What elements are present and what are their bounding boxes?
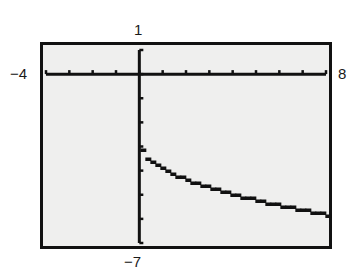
- curve-pixel: [170, 173, 176, 177]
- curve-pixel: [195, 182, 201, 186]
- curve-pixel: [275, 203, 281, 207]
- curve-pixel: [160, 167, 166, 171]
- curve-pixel: [260, 200, 266, 204]
- curve-pixel: [225, 191, 231, 195]
- curve-pixel: [185, 179, 191, 183]
- plot-area: [0, 0, 352, 278]
- curve-pixel: [235, 194, 241, 198]
- curve-pixel: [290, 206, 296, 210]
- curve-pixel: [155, 164, 161, 168]
- curve-pixel: [325, 215, 331, 219]
- curve-pixel: [145, 158, 151, 162]
- curve-pixel: [150, 161, 156, 165]
- curve-pixel: [250, 197, 256, 201]
- curve-pixel: [180, 176, 186, 180]
- curve-pixel: [320, 212, 326, 216]
- curve-pixel: [165, 170, 171, 174]
- curve-pixel: [205, 185, 211, 189]
- curve-pixel: [140, 149, 146, 153]
- curve-pixel: [215, 188, 221, 192]
- curve-pixel: [305, 209, 311, 213]
